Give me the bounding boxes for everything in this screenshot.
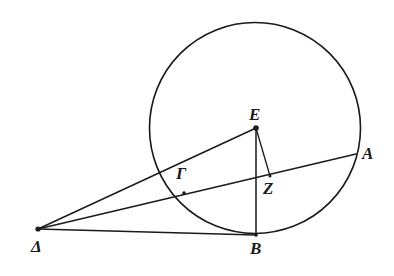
point-label-z: Z [263, 180, 273, 197]
vertex-b [254, 233, 258, 237]
segment-delta-b [38, 229, 256, 235]
point-label-e: E [249, 106, 260, 123]
segment-delta-a [38, 154, 356, 229]
vertex-z [269, 175, 272, 178]
point-label-delta: Δ [31, 238, 42, 255]
point-label-a: A [362, 145, 373, 162]
point-label-b: B [250, 240, 261, 257]
point-label-gamma: Γ [176, 165, 186, 182]
segment-delta-e [38, 128, 256, 229]
geometry-figure: A B Γ Δ E Z [0, 0, 394, 276]
vertex-e [253, 125, 259, 131]
vertex-gamma [182, 191, 186, 195]
vertex-delta [35, 226, 40, 231]
geometry-canvas [0, 0, 394, 276]
segment-e-z [256, 128, 270, 176]
